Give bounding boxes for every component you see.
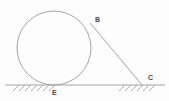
vertex-label-b: B <box>95 16 100 23</box>
hatch-group-left-tick <box>13 85 19 91</box>
hatch-group-right-tick <box>143 85 149 91</box>
hatch-group-left-tick <box>19 85 25 91</box>
hatch-group-right-tick <box>137 85 143 91</box>
hatch-group-left-tick <box>37 85 43 91</box>
hatch-group-right-tick <box>125 85 131 91</box>
tangent-segment-BC <box>91 24 143 86</box>
hatch-group-right-tick <box>149 85 155 91</box>
vertex-label-c: C <box>148 74 153 81</box>
hatch-group-right-tick <box>131 85 137 91</box>
hatching-group <box>13 85 155 91</box>
figure-canvas <box>0 0 169 101</box>
hatch-group-left-tick <box>31 85 37 91</box>
hatch-group-left-tick <box>25 85 31 91</box>
vertex-label-e: E <box>52 89 57 96</box>
hatch-group-right-tick <box>119 85 125 91</box>
circle-shape <box>17 11 91 85</box>
hatch-group-left-tick <box>43 85 49 91</box>
geometry-figure: B C E <box>0 0 169 101</box>
